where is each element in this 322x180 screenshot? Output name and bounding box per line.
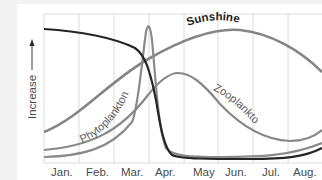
sunshine-curve <box>44 30 322 132</box>
x-tick-apr: Apr. <box>155 166 175 178</box>
phytoplankton-label: Phytoplankton <box>78 89 131 145</box>
x-tick-mar: Mar. <box>121 166 143 178</box>
x-tick-jan: Jan. <box>51 166 73 178</box>
x-tick-jul: Jul. <box>262 166 280 178</box>
sunshine-label: Sunshine <box>185 10 241 28</box>
x-tick-jun: Jun. <box>225 166 247 178</box>
increase-arrow-icon <box>30 39 35 46</box>
y-axis: Increase <box>26 39 38 119</box>
y-axis-label: Increase <box>26 75 38 119</box>
x-axis: Jan. Feb. Mar. Apr. May Jun. Jul. Aug. <box>51 166 317 178</box>
plankton-seasonal-chart: Sunshine Phytoplankton Zooplankton Incre… <box>0 0 322 180</box>
x-tick-feb: Feb. <box>86 166 109 178</box>
x-tick-may: May <box>193 166 215 178</box>
x-tick-aug: Aug. <box>293 166 317 178</box>
